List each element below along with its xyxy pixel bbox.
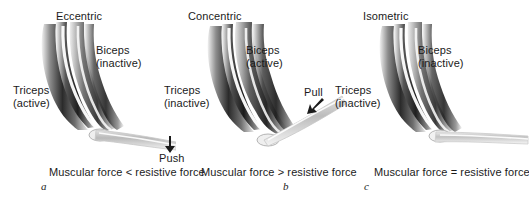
panel-title-isometric: Isometric [363,10,409,23]
biceps-state: (inactive) [418,57,464,70]
arm-illustration-eccentric [0,0,176,160]
biceps-state: (inactive) [96,57,142,70]
triceps-state: (inactive) [335,97,381,110]
triceps-label-eccentric: Triceps (active) [13,84,50,109]
biceps-label-isometric: Biceps (inactive) [418,44,464,69]
biceps-label-eccentric: Biceps (inactive) [96,44,142,69]
biceps-name: Biceps [246,44,280,56]
panel-letter-b: b [283,180,289,193]
muscle-action-figure: Eccentric Biceps (inactive) Triceps (act… [0,0,529,198]
triceps-state: (active) [13,97,50,110]
biceps-name: Biceps [418,44,452,56]
triceps-label-isometric: Triceps (inactive) [335,84,381,109]
caption-isometric: Muscular force = resistive force [374,166,529,179]
panel-concentric: Concentric Biceps (active) Triceps (inac… [176,0,352,198]
triceps-name: Triceps [335,84,371,96]
triceps-name: Triceps [13,84,49,96]
panel-eccentric: Eccentric Biceps (inactive) Triceps (act… [0,0,176,198]
force-word-pull: Pull [304,86,323,99]
biceps-state: (active) [246,57,283,70]
biceps-name: Biceps [96,44,130,56]
biceps-label-concentric: Biceps (active) [246,44,283,69]
triceps-name: Triceps [164,84,200,96]
panel-isometric: Isometric Biceps (inactive) Triceps (ina… [352,0,529,198]
triceps-label-concentric: Triceps (inactive) [164,84,210,109]
pull-diagonal-arrow-icon [307,96,325,116]
arm-illustration-isometric [352,0,529,160]
panel-letter-a: a [41,180,47,193]
caption-concentric: Muscular force > resistive force [201,166,357,179]
panel-letter-c: c [364,180,369,193]
panel-title-concentric: Concentric [188,10,242,23]
panel-title-eccentric: Eccentric [56,10,102,23]
arm-illustration-concentric [176,0,352,160]
triceps-state: (inactive) [164,97,210,110]
